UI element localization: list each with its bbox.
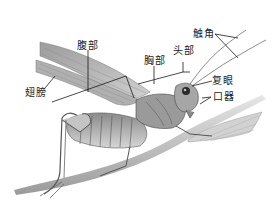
- label-compound-eye: 复眼: [212, 75, 233, 86]
- grasshopper-diagram: [0, 0, 277, 210]
- label-abdomen: 腹部: [77, 40, 98, 51]
- label-antenna: 触角: [193, 28, 214, 39]
- label-thorax: 胸部: [144, 55, 165, 66]
- label-head: 头部: [173, 45, 194, 56]
- label-wings: 翅膀: [25, 87, 46, 98]
- label-mouthparts: 口器: [213, 91, 234, 102]
